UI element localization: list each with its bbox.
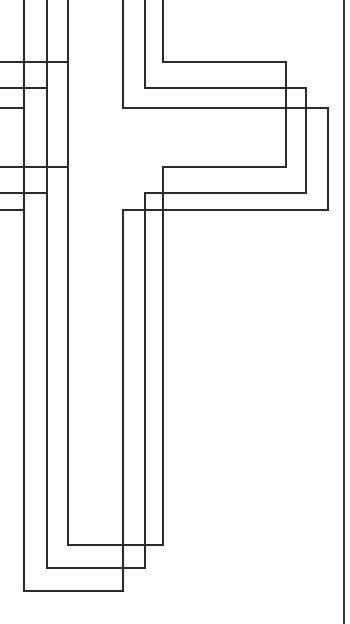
cross-line-art	[0, 0, 350, 624]
middle-cross-outline-group	[0, 0, 306, 568]
inner-cross-outline-group	[0, 0, 286, 545]
coloring-page-canvas	[0, 0, 350, 624]
